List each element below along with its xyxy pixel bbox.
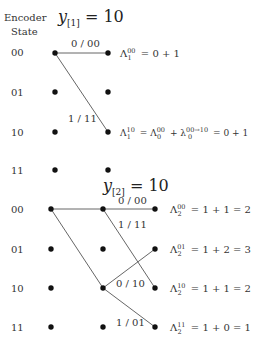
edge-label-2-10-11: 1 / 01	[116, 317, 145, 328]
node-2-s1-00	[100, 206, 105, 211]
node-2-s0-01	[48, 246, 53, 251]
edge-label-00-00: 0 / 00	[71, 38, 100, 49]
node-s0-01	[52, 89, 57, 94]
edge-label-00-10: 1 / 11	[68, 113, 97, 124]
metric-1-10: Λ101 = Λ000 + λ00→100 = 0 + 1	[119, 126, 248, 141]
state-label-00: 00	[11, 47, 24, 58]
node-2-s1-01	[100, 246, 105, 251]
state-label-2-00: 00	[11, 204, 24, 215]
node-s1-00	[105, 50, 110, 55]
node-2-s1-10	[100, 285, 105, 290]
node-2-s0-00	[48, 206, 53, 211]
state-label-2-10: 10	[11, 283, 24, 294]
encoder-label: Encoder	[4, 12, 47, 23]
metric-2-10: Λ102 = 1 + 1 = 2	[169, 282, 251, 297]
state-label-10: 10	[11, 127, 24, 138]
edge-label-2-10-01: 0 / 10	[116, 278, 145, 289]
node-s0-11	[52, 167, 57, 172]
metric-1-00: Λ001 = 0 + 1	[119, 47, 180, 62]
metric-2-00: Λ002 = 1 + 1 = 2	[169, 203, 251, 218]
node-2-s0-10	[48, 285, 53, 290]
node-s0-10	[52, 129, 57, 134]
edge-prev-00-10	[51, 209, 103, 288]
node-2-s2-11	[152, 324, 157, 329]
observation-y1: y[1] = 10	[57, 7, 124, 28]
node-2-s1-11	[100, 324, 105, 329]
state-label-2-01: 01	[11, 244, 24, 255]
edge-label-2-00-10: 1 / 11	[118, 219, 147, 230]
node-2-s0-11	[48, 324, 53, 329]
metric-2-01: Λ012 = 1 + 2 = 3	[169, 243, 251, 258]
node-s1-11	[105, 167, 110, 172]
metric-2-11: Λ112 = 1 + 0 = 1	[169, 321, 251, 336]
node-s0-00	[52, 50, 57, 55]
state-label-2-11: 11	[11, 322, 24, 333]
node-2-s2-10	[152, 285, 157, 290]
node-s1-10	[105, 129, 110, 134]
state-label-11: 11	[11, 165, 24, 176]
node-s1-01	[105, 89, 110, 94]
edge-label-2-00-00: 0 / 00	[118, 195, 147, 206]
state-label-01: 01	[11, 87, 24, 98]
node-2-s2-00	[152, 206, 157, 211]
trellis-diagram: Encoder State y[1] = 10 00 01 10 11 0 / …	[0, 0, 255, 354]
node-2-s2-01	[152, 246, 157, 251]
state-label: State	[11, 26, 38, 37]
observation-y2: y[2] = 10	[102, 176, 169, 197]
